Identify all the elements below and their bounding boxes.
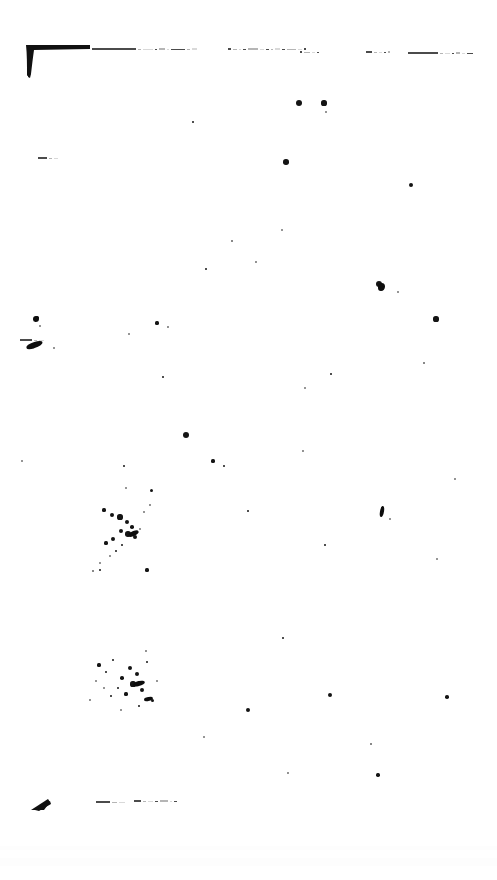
scan-speckle (111, 537, 115, 541)
ghost-text-segment (300, 51, 302, 53)
scan-speckle (223, 465, 225, 467)
scan-speckle (155, 321, 158, 324)
scan-speckle (325, 111, 327, 113)
ghost-text-segment (388, 51, 390, 53)
scan-speckle (167, 326, 169, 328)
ink-blob-upper-right (378, 283, 385, 291)
scan-speckle (255, 261, 257, 263)
ghost-text-segment (445, 53, 450, 54)
scan-speckle (151, 699, 154, 702)
scan-speckle (130, 525, 134, 529)
ghost-text-segment (187, 49, 190, 50)
ink-blob-left-upper (25, 340, 43, 351)
scan-speckle (246, 708, 250, 712)
ghost-text-segment (192, 48, 197, 50)
scan-speckle (135, 672, 139, 676)
scan-speckle (423, 362, 425, 364)
scan-speckle (143, 511, 145, 513)
ghost-text-segment (317, 52, 319, 53)
ghost-text-line (408, 52, 473, 54)
ghost-text-segment (148, 801, 153, 802)
scan-speckle (296, 100, 302, 106)
ghost-text-segment (171, 49, 185, 50)
ghost-text-segment (134, 800, 141, 802)
scan-speckle (138, 705, 140, 707)
ghost-text-segment (452, 53, 454, 54)
scan-speckle (123, 465, 126, 468)
ghost-text-segment (467, 53, 473, 54)
scan-speckle (130, 681, 135, 686)
scan-speckle (183, 432, 189, 438)
scan-speckle (205, 268, 207, 270)
ghost-text-segment (462, 53, 465, 54)
ghost-text-segment (34, 340, 37, 341)
ghost-text-segment (233, 49, 237, 50)
scan-speckle (145, 650, 147, 652)
ghost-text-segment (260, 49, 264, 50)
ghost-text-segment (266, 49, 269, 50)
scan-speckle (99, 569, 102, 572)
scan-speckle (53, 347, 55, 349)
ink-blob-center-lower (133, 680, 146, 687)
scan-speckle (281, 229, 283, 231)
ghost-text-segment (112, 802, 117, 803)
ghost-text-segment (304, 48, 306, 50)
ghost-text-segment (96, 801, 110, 803)
scan-speckle (128, 333, 130, 335)
ghost-text-segment (282, 49, 285, 50)
scan-speckle (105, 671, 107, 673)
scan-speckle (124, 692, 127, 695)
ghost-text-segment (239, 49, 241, 50)
scan-speckle (321, 100, 326, 105)
ghost-text-line (228, 48, 306, 50)
scan-speckle (247, 510, 250, 513)
ghost-text-segment (174, 801, 177, 802)
scan-speckle (156, 680, 158, 682)
scan-speckle (21, 460, 23, 462)
ghost-text-segment (159, 48, 165, 50)
ghost-text-segment (39, 340, 44, 341)
ghost-text-segment (287, 49, 296, 50)
scan-speckle (119, 529, 124, 534)
scan-speckle (140, 688, 144, 692)
ink-blob-center-upper (127, 529, 139, 537)
scan-speckle (283, 159, 289, 165)
ghost-text-segment (138, 49, 141, 50)
scanned-page: Scanned page (0, 0, 497, 880)
scan-speckle-layer (0, 0, 497, 880)
scan-speckle (102, 508, 105, 511)
scan-speckle (445, 695, 449, 699)
ghost-text-segment (384, 52, 386, 53)
scan-speckle (397, 291, 399, 293)
ghost-text-line (20, 339, 44, 341)
ghost-text-segment (119, 802, 125, 803)
scan-speckle (115, 550, 117, 552)
scan-speckle (125, 487, 127, 489)
scan-speckle (97, 663, 100, 666)
ghost-text-segment (248, 48, 258, 50)
paper-tint-band (0, 846, 497, 850)
scan-speckle (139, 528, 141, 530)
ghost-text-segment (38, 157, 47, 159)
scan-speckle (125, 520, 129, 524)
scan-speckle (376, 281, 382, 287)
scan-speckle (120, 709, 122, 711)
ghost-text-segment (160, 800, 168, 802)
scan-speckle (89, 699, 91, 701)
scan-speckle (302, 450, 304, 452)
ghost-text-segment (456, 52, 460, 54)
scan-speckle (304, 387, 306, 389)
scan-speckle (330, 373, 333, 376)
ghost-text-line (300, 51, 319, 53)
scan-speckle (370, 743, 372, 745)
scan-speckle (120, 676, 124, 680)
ghost-text-segment (143, 801, 146, 802)
bottom-ghost-text-strip (0, 858, 497, 865)
paper-tint-band (0, 858, 497, 866)
ghost-text-segment (20, 339, 32, 341)
scan-speckle (112, 659, 115, 662)
ghost-text-line (366, 51, 390, 53)
ghost-text-segment (155, 49, 157, 50)
ghost-text-segment (408, 52, 438, 54)
scan-speckle (145, 568, 148, 571)
